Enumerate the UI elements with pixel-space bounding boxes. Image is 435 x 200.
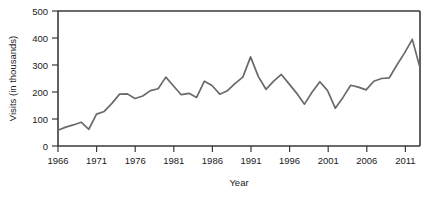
y-tick-label-500: 500 — [32, 6, 48, 17]
x-tick-label-1996: 1996 — [279, 155, 300, 166]
x-tick-label-1981: 1981 — [163, 155, 184, 166]
x-tick-label-2011: 2011 — [395, 155, 415, 166]
y-tick-label-0: 0 — [43, 141, 48, 152]
x-tick-label-1991: 1991 — [240, 155, 261, 166]
chart-background — [0, 0, 435, 200]
x-tick-label-2001: 2001 — [318, 155, 339, 166]
y-tick-label-100: 100 — [32, 114, 48, 125]
y-tick-label-200: 200 — [32, 87, 48, 98]
chart-canvas: 0 100 200 300 400 500 1966 1971 1976 198… — [0, 0, 435, 200]
x-tick-label-1976: 1976 — [125, 155, 146, 166]
x-tick-label-1966: 1966 — [47, 155, 68, 166]
y-axis-title: Visits (in thousands) — [7, 36, 18, 121]
y-tick-label-300: 300 — [32, 60, 48, 71]
x-axis-title: Year — [229, 177, 248, 188]
x-tick-label-1986: 1986 — [202, 155, 223, 166]
x-tick-label-2006: 2006 — [356, 155, 377, 166]
y-tick-label-400: 400 — [32, 33, 48, 44]
line-chart-figure: 0 100 200 300 400 500 1966 1971 1976 198… — [0, 0, 435, 200]
x-tick-label-1971: 1971 — [86, 155, 107, 166]
